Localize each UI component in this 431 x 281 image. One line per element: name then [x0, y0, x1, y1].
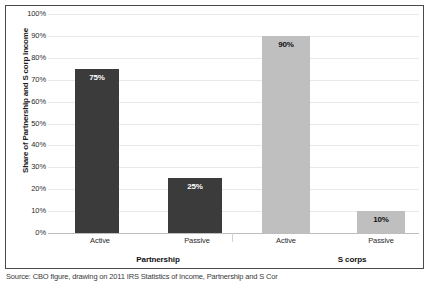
gridline-0 [48, 233, 419, 234]
x-label-scorps-active: Active [241, 236, 331, 245]
y-tick-100: 100% [2, 10, 46, 18]
y-tick-40: 40% [2, 141, 46, 149]
chart-page: Share of Partnership and S corp Income 1… [0, 0, 431, 281]
x-label-partnership-passive: Passive [152, 236, 242, 245]
y-tick-30: 30% [2, 163, 46, 171]
group-label-scorps: S corps [292, 255, 412, 264]
y-tick-0: 0% [2, 229, 46, 237]
plot-area: 75% 25% 90% 10% [48, 14, 419, 233]
bar-partnership-active[interactable]: 75% [75, 69, 119, 233]
bar-scorps-passive[interactable]: 10% [357, 211, 405, 233]
bar-value-label: 75% [75, 73, 119, 82]
bar-value-label: 10% [357, 215, 405, 224]
y-tick-50: 50% [2, 120, 46, 128]
y-tick-60: 60% [2, 98, 46, 106]
source-note: Source: CBO figure, drawing on 2011 IRS … [6, 272, 426, 281]
gridline-90 [48, 36, 419, 37]
y-tick-90: 90% [2, 32, 46, 40]
y-tick-80: 80% [2, 54, 46, 62]
gridline-80 [48, 58, 419, 59]
bar-partnership-passive[interactable]: 25% [168, 178, 222, 233]
y-tick-70: 70% [2, 76, 46, 84]
y-axis-ticks: 100% 90% 80% 70% 60% 50% 40% 30% 20% 10%… [0, 14, 46, 233]
gridline-100 [48, 14, 419, 15]
x-label-scorps-passive: Passive [336, 236, 426, 245]
bar-value-label: 25% [168, 182, 222, 191]
y-tick-10: 10% [2, 207, 46, 215]
group-label-partnership: Partnership [98, 255, 218, 264]
x-label-partnership-active: Active [55, 236, 145, 245]
y-tick-20: 20% [2, 185, 46, 193]
bar-scorps-active[interactable]: 90% [262, 36, 310, 233]
bar-value-label: 90% [262, 40, 310, 49]
